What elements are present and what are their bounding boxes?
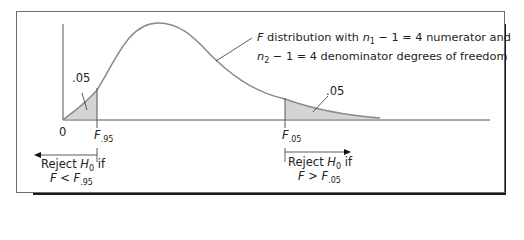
reject-left-arrowhead-icon: [34, 152, 41, 158]
origin-label: 0: [59, 125, 66, 139]
f05-label: F.05: [282, 128, 301, 147]
reject-left-condition: F < F.95: [50, 171, 93, 190]
reject-right-condition: F > F.05: [298, 169, 341, 188]
caption-leader: [216, 38, 252, 61]
distribution-caption: F distribution with n1 − 1 = 4 numerator…: [257, 30, 511, 68]
f95-label: F.95: [94, 128, 113, 147]
caption-line-2: n2 − 1 = 4 denominator degrees of freedo…: [257, 49, 511, 68]
left-area-label: .05: [72, 71, 90, 85]
caption-line-1: F distribution with n1 − 1 = 4 numerator…: [257, 30, 511, 49]
right-area-label: .05: [326, 84, 344, 98]
